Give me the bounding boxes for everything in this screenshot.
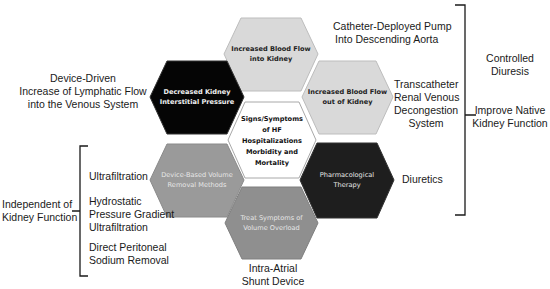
label-hydrostatic: Hydrostatic Pressure Gradient Ultrafiltr… — [89, 195, 174, 234]
label-improve-native: Improve Native Kidney Function — [470, 104, 550, 130]
label-transcatheter: Transcatheter Renal Venous Decongestion … — [394, 78, 458, 130]
hex-bottom-text: Treat Symptoms of Volume Overload — [225, 213, 318, 233]
hex-center-text: Signs/Symptoms of HF Hospitalizations Mo… — [228, 114, 316, 169]
label-peritoneal: Direct Peritoneal Sodium Removal — [89, 241, 169, 267]
label-independent: Independent of Kidney Function — [2, 198, 72, 224]
label-diuretics: Diuretics — [402, 173, 443, 186]
hex-upper-left-text: Decreased Kidney Interstitial Pressure — [150, 87, 244, 107]
label-intra-atrial: Intra-Atrial Shunt Device — [235, 262, 311, 288]
label-lymphatic: Device-Driven Increase of Lymphatic Flow… — [18, 72, 148, 111]
hex-upper-right-text: Increased Blood Flow out of Kidney — [302, 87, 393, 107]
label-catheter-pump: Catheter-Deployed Pump Into Descending A… — [333, 20, 451, 46]
hex-lower-right-text: Pharmacological Therapy — [300, 170, 394, 190]
label-ultrafiltration: Ultrafiltration — [89, 170, 148, 183]
hex-lower-left-text: Device-Based Volume Removal Methods — [150, 170, 244, 190]
label-controlled-diuresis: Controlled Diuresis — [482, 52, 538, 78]
hex-top-text: Increased Blood Flow into Kidney — [224, 44, 318, 64]
